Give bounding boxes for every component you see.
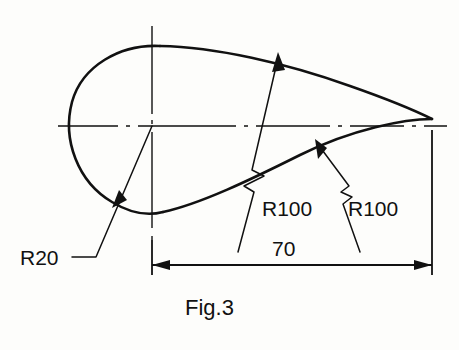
r20-label: R20 [20,246,59,269]
r100-upper-leader-group: R100 [238,52,312,252]
r100-lower-leader-group: R100 [315,139,398,252]
length-label: 70 [272,237,295,260]
left-arc-r20 [69,46,163,214]
figure-canvas: R20 R100 R100 70 Fig.3 [0,0,459,350]
r100-upper-leader-line [238,58,278,252]
r100-lower-arrowhead [315,139,327,159]
dimension-arrowhead-right [414,260,432,270]
profile-outline [69,46,432,214]
technical-drawing-figure: R20 R100 R100 70 Fig.3 [0,0,459,350]
r100-upper-label: R100 [262,197,312,220]
figure-caption: Fig.3 [185,295,234,320]
r20-leader-line [72,126,152,257]
dimension-arrowhead-left [152,260,170,270]
upper-arc-r100 [160,46,432,119]
r100-lower-label: R100 [348,197,398,220]
r20-leader-group: R20 [20,126,152,269]
